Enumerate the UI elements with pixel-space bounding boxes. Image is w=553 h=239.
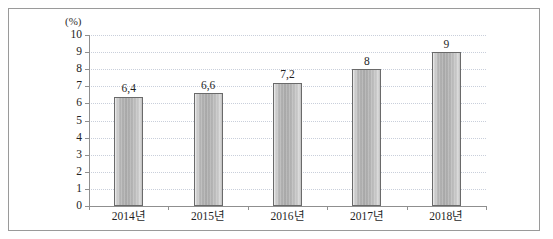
gridline	[89, 35, 486, 36]
y-axis-tick-label: 6	[76, 98, 82, 110]
y-axis-tick-label: 8	[76, 63, 82, 75]
bar[interactable]: 6,6	[194, 93, 223, 206]
bar-value-label: 8	[364, 56, 370, 68]
x-axis-line	[89, 206, 486, 207]
bar-value-label: 6,6	[201, 80, 215, 92]
bar-value-label: 6,4	[122, 83, 136, 95]
bar[interactable]: 6,4	[114, 97, 143, 206]
x-axis-category-label: 2014년	[112, 211, 146, 223]
y-axis-tick-label: 3	[76, 149, 82, 161]
x-axis-tick-mark	[486, 206, 487, 210]
y-axis-tick-label: 1	[76, 183, 82, 195]
gridline	[89, 52, 486, 53]
y-axis-line	[89, 35, 90, 206]
y-axis-tick-label: 2	[76, 166, 82, 178]
chart-frame: (%) 012345678910 6,46,67,289 2014년2015년2…	[8, 8, 540, 231]
plot-area: 012345678910 6,46,67,289 2014년2015년2016년…	[89, 35, 486, 206]
bar[interactable]: 7,2	[273, 83, 302, 206]
bar-value-label: 9	[443, 39, 449, 51]
x-axis-category-label: 2016년	[271, 211, 305, 223]
y-axis-tick-label: 7	[76, 81, 82, 93]
y-axis-tick-label: 10	[71, 29, 83, 41]
bar-value-label: 7,2	[280, 69, 294, 81]
y-axis-unit-label: (%)	[65, 15, 82, 27]
bar[interactable]: 9	[432, 52, 461, 206]
y-axis-tick-label: 0	[76, 200, 82, 212]
x-axis-category-label: 2015년	[191, 211, 225, 223]
y-axis-tick-label: 4	[76, 132, 82, 144]
x-axis-category-label: 2017년	[350, 211, 384, 223]
x-axis-category-label: 2018년	[429, 211, 463, 223]
bar[interactable]: 8	[352, 69, 381, 206]
y-axis-tick-label: 9	[76, 46, 82, 58]
y-axis-tick-label: 5	[76, 115, 82, 127]
